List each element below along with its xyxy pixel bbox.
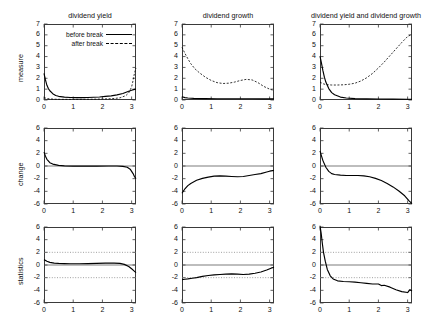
x-tick-label: 0 [38,103,50,110]
x-tick-label: 1 [343,306,355,313]
y-tick-label: 6 [166,124,178,131]
y-tick-label: -2 [166,174,178,181]
x-tick-label: 3 [126,103,138,110]
x-tick-label: 1 [67,207,79,214]
plot-area-measure-dividend-growth [182,24,274,100]
y-tick-label: 4 [166,52,178,59]
y-tick-label: 0 [304,96,316,103]
figure-panel-grid: dividend yielddividend growthdividend yi… [0,0,432,321]
x-tick-label: 2 [96,207,108,214]
x-tick-label: 2 [96,103,108,110]
y-tick-label: 0 [304,261,316,268]
x-tick-label: 1 [67,103,79,110]
y-tick-label: -4 [28,187,40,194]
y-axis-label-statistics: statistics [16,257,25,285]
legend: before breakafter break [62,30,132,48]
x-tick-label: 2 [96,306,108,313]
y-tick-label: 1 [166,85,178,92]
y-tick-label: 4 [166,136,178,143]
y-tick-label: 2 [304,149,316,156]
y-tick-label: 4 [304,52,316,59]
x-tick-label: 0 [176,207,188,214]
y-tick-label: -2 [28,273,40,280]
y-tick-label: 0 [166,96,178,103]
y-tick-label: -2 [304,273,316,280]
y-tick-label: 4 [28,136,40,143]
plot-area-measure-dividend-yield-and-dividend-growth [320,24,412,100]
x-tick-label: 2 [234,306,246,313]
y-tick-label: 0 [28,261,40,268]
y-tick-label: 6 [304,30,316,37]
y-tick-label: 5 [166,41,178,48]
x-tick-label: 3 [402,207,414,214]
y-tick-label: 7 [304,20,316,27]
y-tick-label: 6 [166,30,178,37]
y-tick-label: -2 [28,174,40,181]
y-tick-label: 2 [166,149,178,156]
x-tick-label: 0 [38,207,50,214]
x-tick-label: 1 [343,103,355,110]
y-tick-label: -4 [166,187,178,194]
legend-label: after break [71,40,103,47]
y-tick-label: -4 [304,286,316,293]
plot-area-change-dividend-growth [182,128,274,204]
y-tick-label: -4 [28,286,40,293]
y-tick-label: -2 [166,273,178,280]
y-tick-label: 2 [28,248,40,255]
y-tick-label: 0 [166,162,178,169]
y-tick-label: 2 [166,74,178,81]
plot-area-change-dividend-yield [44,128,136,204]
y-tick-label: 6 [28,124,40,131]
y-tick-label: 6 [28,30,40,37]
y-tick-label: 0 [166,261,178,268]
y-tick-label: 4 [304,136,316,143]
y-tick-label: 3 [28,63,40,70]
y-tick-label: 5 [28,41,40,48]
x-tick-label: 2 [372,103,384,110]
x-tick-label: 0 [314,306,326,313]
x-tick-label: 3 [126,207,138,214]
y-tick-label: 6 [304,124,316,131]
y-tick-label: 4 [166,235,178,242]
y-tick-label: -6 [166,200,178,207]
y-tick-label: 4 [28,52,40,59]
y-tick-label: 6 [304,223,316,230]
x-tick-label: 1 [67,306,79,313]
plot-area-change-dividend-yield-and-dividend-growth [320,128,412,204]
y-tick-label: 4 [304,235,316,242]
y-axis-label-change: change [16,162,25,186]
y-tick-label: -6 [304,299,316,306]
plot-area-statistics-dividend-yield [44,227,136,303]
legend-label: before break [66,31,103,38]
y-tick-label: -6 [304,200,316,207]
x-tick-label: 3 [402,103,414,110]
y-axis-label-measure: measure [16,54,25,82]
y-tick-label: 3 [304,63,316,70]
y-tick-label: -4 [166,286,178,293]
x-tick-label: 3 [264,207,276,214]
x-tick-label: 1 [205,306,217,313]
y-tick-label: 1 [28,85,40,92]
y-tick-label: -6 [28,299,40,306]
x-tick-label: 3 [126,306,138,313]
y-tick-label: 2 [28,149,40,156]
y-tick-label: -2 [304,174,316,181]
x-tick-label: 0 [38,306,50,313]
y-tick-label: 5 [304,41,316,48]
legend-line-sample-dashed [106,43,132,44]
y-tick-label: 7 [166,20,178,27]
y-tick-label: -6 [166,299,178,306]
y-tick-label: 4 [28,235,40,242]
y-tick-label: 3 [166,63,178,70]
x-tick-label: 3 [264,103,276,110]
plot-area-statistics-dividend-growth [182,227,274,303]
x-tick-label: 1 [343,207,355,214]
y-tick-label: 2 [166,248,178,255]
x-tick-label: 2 [372,306,384,313]
y-tick-label: 6 [28,223,40,230]
x-tick-label: 0 [314,103,326,110]
x-tick-label: 2 [372,207,384,214]
x-tick-label: 0 [314,207,326,214]
legend-line-sample-solid [106,34,132,35]
x-tick-label: 0 [176,103,188,110]
